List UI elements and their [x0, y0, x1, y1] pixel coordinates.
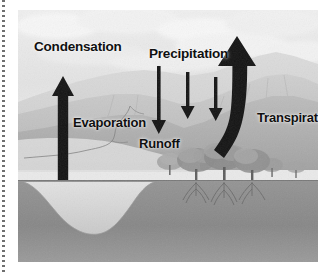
label-evaporation: Evaporation — [73, 116, 146, 129]
label-transpiration: Transpiration — [257, 111, 318, 124]
water-cycle-figure: Condensation Precipitation Evaporation R… — [18, 10, 318, 262]
label-precipitation: Precipitation — [149, 47, 228, 61]
label-runoff: Runoff — [139, 137, 180, 150]
label-condensation: Condensation — [34, 40, 122, 54]
page-margin-dotted-rule — [2, 0, 5, 274]
